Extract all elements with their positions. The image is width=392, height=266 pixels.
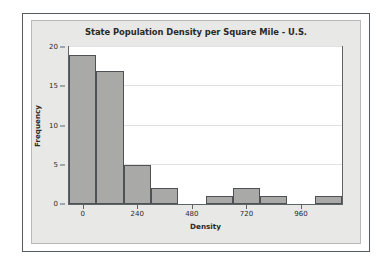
y-tick-mark <box>60 204 65 205</box>
histogram-bar <box>69 55 96 204</box>
x-tick-label: 0 <box>80 210 84 218</box>
y-tick-mark <box>60 164 65 165</box>
y-tick-label: 15 <box>49 82 58 90</box>
histogram-bar <box>233 188 260 204</box>
x-axis-title: Density <box>68 222 343 231</box>
histogram-bar <box>151 188 178 204</box>
chart-title: State Population Density per Square Mile… <box>31 27 361 37</box>
x-tick-mark <box>137 205 138 209</box>
histogram-bar <box>124 165 151 204</box>
x-tick-mark <box>301 205 302 209</box>
x-tick-label: 480 <box>185 210 198 218</box>
y-tick-label: 0 <box>54 200 58 208</box>
x-tick-mark <box>246 205 247 209</box>
x-tick-label: 240 <box>131 210 144 218</box>
x-tick-mark <box>192 205 193 209</box>
plot-area <box>68 46 343 205</box>
y-axis-title: Frequency <box>33 105 42 147</box>
y-tick-label: 20 <box>49 43 58 51</box>
y-tick-mark <box>60 125 65 126</box>
x-tick-label: 960 <box>294 210 307 218</box>
histogram-bar <box>96 71 123 204</box>
histogram-bars <box>69 47 342 204</box>
histogram-bar <box>206 196 233 204</box>
y-tick-mark <box>60 47 65 48</box>
histogram-bar <box>260 196 287 204</box>
y-tick-label: 5 <box>54 161 58 169</box>
y-tick-mark <box>60 86 65 87</box>
y-tick-label: 10 <box>49 122 58 130</box>
x-tick-mark <box>83 205 84 209</box>
x-tick-label: 720 <box>240 210 253 218</box>
screenshot-canvas: State Population Density per Square Mile… <box>0 0 392 266</box>
histogram-bar <box>315 196 342 204</box>
